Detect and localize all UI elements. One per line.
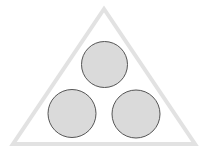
diagram-canvas	[0, 0, 208, 158]
circle-top	[82, 42, 128, 88]
triangle-circles-diagram	[0, 0, 208, 158]
circle-bottom-right	[112, 90, 160, 138]
circle-bottom-left	[48, 90, 96, 138]
